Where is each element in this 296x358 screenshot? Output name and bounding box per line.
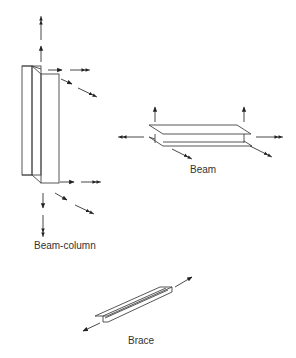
- beam-column-arrows: [41, 16, 101, 237]
- brace-member: [95, 287, 172, 322]
- diagram-canvas: [0, 0, 296, 358]
- beam-member: [149, 125, 252, 146]
- beam-column-member: [22, 66, 59, 183]
- beam-column-label: Beam-column: [34, 240, 96, 251]
- brace-label: Brace: [128, 335, 154, 346]
- beam-arrows: [118, 107, 283, 159]
- beam-label: Beam: [190, 164, 216, 175]
